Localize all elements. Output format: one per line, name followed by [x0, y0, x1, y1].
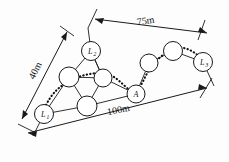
network-diagram-canvas: 75m 40m 100m — [0, 0, 229, 162]
node-n1[interactable] — [59, 67, 79, 87]
node-sub-L3: 3 — [205, 62, 209, 68]
witness-line-top-left — [88, 9, 97, 28]
witness-line-left-top — [60, 26, 74, 36]
node-n5[interactable] — [164, 42, 183, 61]
node-label-L3: L — [199, 58, 205, 67]
node-label-L1: L — [40, 110, 46, 119]
dimension-label-40m: 40m — [26, 60, 44, 81]
node-sub-L1: 1 — [47, 114, 50, 120]
node-A[interactable]: A — [127, 85, 145, 103]
node-L1[interactable]: L 1 — [35, 105, 54, 124]
node-n3[interactable] — [77, 96, 97, 116]
dimension-75m: 75m — [95, 14, 207, 33]
dimension-100m: 100m — [28, 84, 207, 137]
diagram-root: 75m 40m 100m — [0, 0, 229, 162]
dimension-label-75m: 75m — [136, 14, 155, 27]
node-L3[interactable]: L 3 — [194, 53, 213, 72]
node-n4[interactable] — [140, 54, 158, 72]
node-label-A: A — [133, 90, 139, 99]
node-L2[interactable]: L 2 — [82, 42, 101, 61]
node-n2[interactable] — [94, 69, 112, 87]
node-sub-L2: 2 — [94, 51, 97, 57]
dimension-label-100m: 100m — [106, 102, 131, 117]
node-label-L2: L — [87, 47, 93, 56]
